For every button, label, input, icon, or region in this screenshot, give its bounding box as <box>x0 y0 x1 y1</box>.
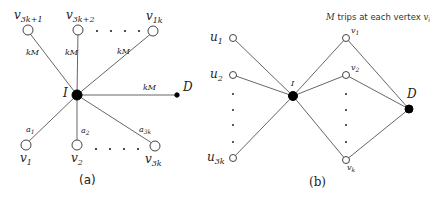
ellipsis-dot <box>95 148 97 150</box>
ellipsis-dot <box>109 148 111 150</box>
node-v2-a <box>72 140 82 150</box>
edge-label-kM-3: kM <box>117 47 131 56</box>
label-v3k2: v3k+2 <box>66 8 95 24</box>
edge-label-a1: a1 <box>26 125 35 135</box>
caption-b: (b) <box>309 175 326 189</box>
edge-label-kM-2: kM <box>65 48 79 57</box>
label-u1: u1 <box>210 30 223 46</box>
destination-node-a <box>175 93 179 97</box>
ellipsis-dot <box>110 30 112 32</box>
edge-u3k-to-hub <box>233 96 293 158</box>
caption-a: (a) <box>79 173 96 187</box>
ellipsis-dot <box>96 30 98 32</box>
label-u3k: u3k <box>207 150 225 166</box>
ellipsis-dot <box>124 30 126 32</box>
label-u2: u2 <box>210 67 223 83</box>
node-v3k2 <box>73 25 83 35</box>
node-u1 <box>230 35 237 42</box>
hub-label-a: I <box>62 86 68 100</box>
node-u3k <box>230 155 237 162</box>
edge-hub-to-v2-b <box>293 75 346 96</box>
label-v1-b: v1 <box>351 26 359 36</box>
label-v3k: v3k <box>145 152 162 168</box>
edge-v2-to-destination <box>346 75 409 109</box>
label-v3k1: v3k+1 <box>14 8 43 24</box>
edge-label-a3k: a3k <box>139 125 152 135</box>
ellipsis-dot <box>345 93 347 95</box>
node-v3k <box>150 141 160 151</box>
edge-hub-to-vk <box>293 96 346 160</box>
ellipsis-dot <box>232 141 234 143</box>
label-v2-b: v2 <box>351 63 360 73</box>
ellipsis-dot <box>345 141 347 143</box>
hub-node-a <box>72 90 82 100</box>
node-v1k <box>148 26 158 36</box>
edge-hub-to-v3k2 <box>77 31 78 95</box>
edge-vk-to-destination <box>346 109 409 160</box>
edge-u2-to-hub <box>233 75 293 96</box>
label-v2-a: v2 <box>71 151 83 167</box>
edge-label-kM-1: kM <box>26 48 40 57</box>
edge-label-kM-destination: kM <box>143 83 157 92</box>
hub-node-b <box>289 92 298 101</box>
ellipsis-dot <box>345 109 347 111</box>
ellipsis-dot <box>232 93 234 95</box>
trips-note: M trips at each vertex vi <box>325 12 430 23</box>
node-v3k1 <box>23 25 33 35</box>
ellipsis-dot <box>138 30 140 32</box>
ellipsis-dot <box>232 124 234 126</box>
node-v1-b <box>343 35 350 42</box>
edge-u1-to-hub <box>233 38 293 96</box>
edge-hub-to-v3k1 <box>28 31 77 95</box>
edge-label-a2: a2 <box>81 126 90 136</box>
hub-label-b: I <box>290 79 295 88</box>
edge-v1-to-destination <box>346 38 409 109</box>
node-u2 <box>230 72 237 79</box>
label-v1k: v1k <box>146 9 163 25</box>
diagram-a: v3k+1 v3k+2 v1k kM kM kM kM a1 a2 a3k I … <box>14 8 193 187</box>
edge-hub-to-v1k <box>77 32 153 95</box>
ellipsis-dot <box>345 124 347 126</box>
edge-hub-to-v3k <box>77 95 155 145</box>
label-vk: vk <box>347 163 356 173</box>
ellipsis-dot <box>137 148 139 150</box>
node-v2-b <box>343 72 350 79</box>
edge-hub-to-v1 <box>26 95 77 144</box>
ellipsis-dot <box>123 148 125 150</box>
destination-label-b: D <box>406 87 417 101</box>
label-v1-a: v1 <box>20 151 32 167</box>
figure-canvas: v3k+1 v3k+2 v1k kM kM kM kM a1 a2 a3k I … <box>0 0 434 201</box>
ellipsis-dot <box>232 109 234 111</box>
node-v1-a <box>21 140 31 150</box>
edge-hub-to-v1-b <box>293 38 346 96</box>
diagram-b: M trips at each vertex vi u1 <box>207 12 430 189</box>
destination-node-b <box>405 105 413 113</box>
destination-label-a: D <box>182 80 193 94</box>
